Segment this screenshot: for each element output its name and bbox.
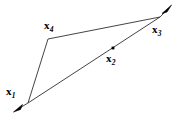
figure-drawing [0,0,182,121]
vertex-label-x4: x4 [44,20,53,31]
arrowhead-bottom-left-icon [14,105,23,113]
vertex-label-x4-base: x [44,19,50,31]
vertex-label-x3-subscript: 3 [158,29,162,38]
arrowhead-top-right-icon [162,5,172,14]
vertex-label-x4-subscript: 4 [50,25,54,34]
vertex-label-x2-base: x [106,52,112,64]
vertex-label-x2-subscript: 2 [112,58,116,67]
vertex-label-x3: x3 [152,24,161,35]
vertex-label-x1: x1 [6,86,15,97]
vertex-label-x2: x2 [106,53,115,64]
vertex-label-x1-base: x [6,85,12,97]
point-marker-x2 [112,47,115,50]
figure-canvas: x1 x2 x3 x4 [0,0,182,121]
vertex-label-x1-subscript: 1 [12,91,16,100]
vertex-label-x3-base: x [152,23,158,35]
